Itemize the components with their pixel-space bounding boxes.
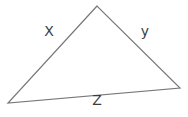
triangle-diagram: X y Z bbox=[0, 0, 188, 117]
side-label-z: Z bbox=[92, 93, 102, 107]
side-label-x: X bbox=[44, 24, 54, 38]
triangle-outline bbox=[8, 6, 180, 103]
side-label-y: y bbox=[141, 24, 149, 38]
